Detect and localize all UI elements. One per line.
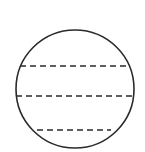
chord-group — [16, 66, 133, 130]
circle-diagram — [0, 0, 145, 152]
outer-circle — [16, 30, 134, 148]
